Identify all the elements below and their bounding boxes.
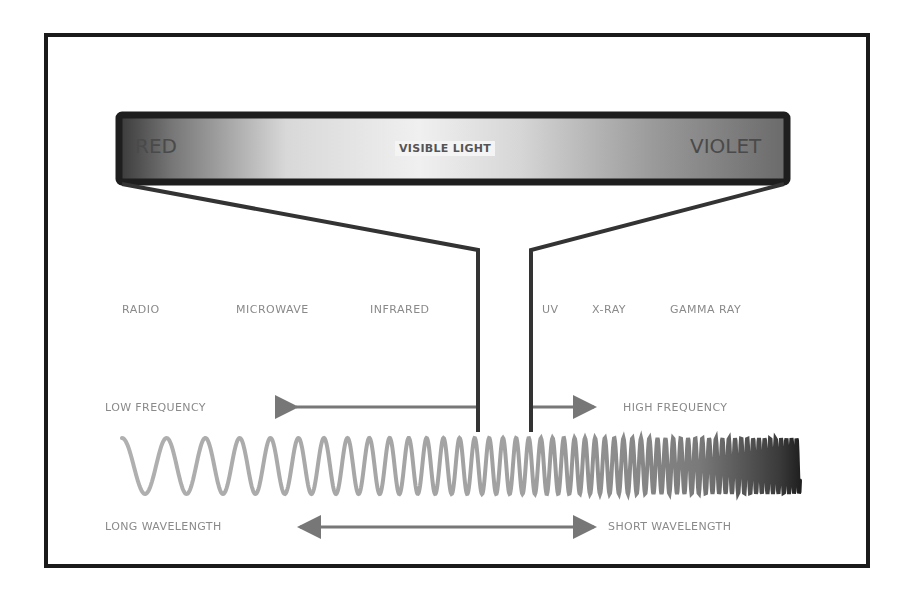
band-label-gamma-ray: GAMMA RAY	[670, 303, 741, 316]
red-label: RED	[135, 134, 177, 158]
band-label-microwave: MICROWAVE	[236, 303, 309, 316]
band-label-infrared: INFRARED	[370, 303, 430, 316]
band-label-x-ray: X-RAY	[592, 303, 626, 316]
spectrum-diagram	[0, 0, 906, 600]
long-wavelength-label: LONG WAVELENGTH	[105, 520, 222, 533]
band-label-radio: RADIO	[122, 303, 160, 316]
violet-label: VIOLET	[690, 134, 761, 158]
low-frequency-label: LOW FREQUENCY	[105, 401, 206, 414]
short-wavelength-label: SHORT WAVELENGTH	[608, 520, 731, 533]
visible-light-label: VISIBLE LIGHT	[395, 141, 495, 156]
funnel-right-line	[531, 184, 784, 432]
band-label-uv: UV	[542, 303, 559, 316]
em-wave	[122, 438, 800, 494]
high-frequency-label: HIGH FREQUENCY	[623, 401, 727, 414]
